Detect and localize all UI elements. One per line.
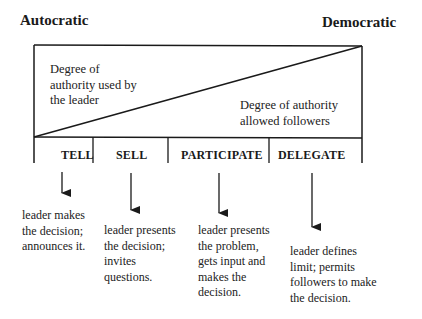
style-label-tell: TELL bbox=[61, 148, 94, 163]
description-line: gets input and bbox=[198, 254, 270, 270]
description-line: limit; permits bbox=[290, 260, 377, 276]
description-line: the decision. bbox=[290, 291, 377, 307]
style-label-participate: PARTICIPATE bbox=[181, 148, 263, 163]
description-sell: leader presents the decision; invites qu… bbox=[104, 223, 176, 285]
style-label-sell: SELL bbox=[116, 148, 148, 163]
style-label-delegate: DELEGATE bbox=[278, 148, 345, 163]
description-line: invites bbox=[104, 254, 176, 270]
description-tell: leader makes the decision; announces it. bbox=[22, 208, 85, 255]
description-line: the decision; bbox=[104, 239, 176, 255]
description-line: leader presents bbox=[198, 223, 270, 239]
region-line: Degree of authority bbox=[240, 98, 338, 114]
description-line: the problem, bbox=[198, 239, 270, 255]
description-line: leader makes bbox=[22, 208, 85, 224]
description-line: questions. bbox=[104, 270, 176, 286]
description-line: announces it. bbox=[22, 239, 85, 255]
follower-authority-text: Degree of authority allowed followers bbox=[240, 98, 338, 129]
description-line: followers to make bbox=[290, 275, 377, 291]
description-line: makes the bbox=[198, 270, 270, 286]
region-line: allowed followers bbox=[240, 114, 338, 130]
description-delegate: leader defines limit; permits followers … bbox=[290, 244, 377, 306]
leader-authority-text: Degree of authority used by the leader bbox=[50, 62, 137, 109]
region-line: Degree of bbox=[50, 62, 137, 78]
region-line: the leader bbox=[50, 93, 137, 109]
description-line: decision. bbox=[198, 285, 270, 301]
description-line: leader defines bbox=[290, 244, 377, 260]
region-line: authority used by bbox=[50, 78, 137, 94]
description-line: leader presents bbox=[104, 223, 176, 239]
description-participate: leader presents the problem, gets input … bbox=[198, 223, 270, 301]
description-line: the decision; bbox=[22, 224, 85, 240]
